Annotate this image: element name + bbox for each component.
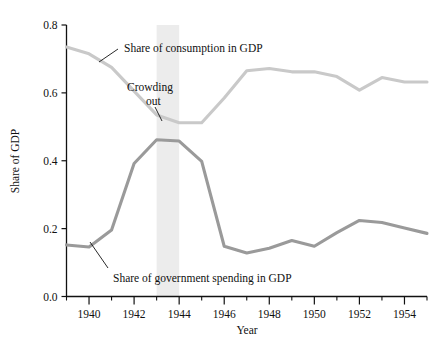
y-axis-tick-label: 0.6 — [43, 87, 58, 99]
series-line-consumption — [67, 47, 428, 123]
crowding-out-label-line1: Crowding — [127, 81, 173, 94]
y-axis-tick-label: 0.2 — [43, 223, 58, 235]
y-axis-title: Share of GDP — [9, 129, 21, 194]
government-spending-leader-line — [90, 242, 108, 268]
crowding-out-band — [157, 25, 180, 297]
y-axis-ticks — [62, 25, 67, 297]
series-line-government-spending — [67, 140, 428, 253]
x-axis-tick-label: 1940 — [78, 308, 101, 320]
x-axis-title: Year — [236, 324, 257, 336]
x-axis-tick-label: 1942 — [123, 308, 146, 320]
y-axis-tick-label: 0.4 — [43, 155, 58, 167]
x-axis-tick-label: 1950 — [303, 308, 326, 320]
x-axis-tick-label: 1948 — [258, 308, 281, 320]
x-axis-ticks — [67, 297, 428, 305]
x-axis-tick-label: 1946 — [213, 308, 236, 320]
crowding-out-label-line2: out — [146, 95, 162, 107]
government-spending-series-label: Share of government spending in GDP — [113, 272, 292, 285]
consumption-series-label: Share of consumption in GDP — [124, 42, 263, 55]
x-axis-tick-label: 1952 — [348, 308, 371, 320]
y-axis-tick-label: 0.8 — [43, 19, 58, 31]
y-axis-tick-labels: 0.00.20.40.60.8 — [43, 19, 58, 303]
x-axis-tick-labels: 19401942194419461948195019521954 — [78, 308, 417, 320]
consumption-leader-line — [99, 49, 118, 62]
y-axis-tick-label: 0.0 — [43, 291, 58, 303]
chart-svg: 0.00.20.40.60.8 194019421944194619481950… — [0, 0, 437, 355]
x-axis-tick-label: 1954 — [393, 308, 416, 320]
x-axis-tick-label: 1944 — [168, 308, 191, 320]
chart-container: 0.00.20.40.60.8 194019421944194619481950… — [0, 0, 437, 355]
